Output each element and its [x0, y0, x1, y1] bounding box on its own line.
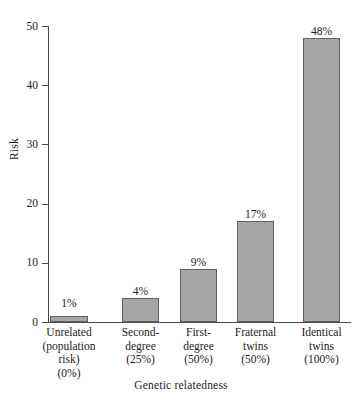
bar-fraternal-twins[interactable]: [237, 221, 274, 322]
category-line: Fraternal: [220, 326, 291, 340]
category-line: Unrelated: [34, 326, 104, 340]
x-axis-category-label-unrelated: Unrelated (population risk) (0%): [34, 326, 104, 380]
category-line: (100%): [286, 353, 357, 367]
bar-value-fraternal-twins: 17%: [237, 209, 274, 221]
category-line: (50%): [220, 353, 291, 367]
bar-value-second-degree: 4%: [122, 286, 159, 298]
bar-unrelated[interactable]: [50, 316, 88, 322]
category-line: twins: [286, 340, 357, 354]
bar-second-degree[interactable]: [122, 298, 159, 322]
category-line: (population: [34, 340, 104, 354]
x-axis-category-label-identical-twins: Identical twins (100%): [286, 326, 357, 367]
bar-chart: 50 40 30 20 10 0 Risk Genetic relatednes…: [0, 0, 362, 401]
bar-value-identical-twins: 48%: [303, 26, 340, 38]
bar-identical-twins[interactable]: [303, 38, 340, 322]
bar-value-first-degree: 9%: [180, 257, 217, 269]
bar-value-unrelated: 1%: [50, 298, 88, 310]
bar-first-degree[interactable]: [180, 269, 217, 322]
category-line: twins: [220, 340, 291, 354]
x-axis-category-label-fraternal-twins: Fraternal twins (50%): [220, 326, 291, 367]
category-line: Identical: [286, 326, 357, 340]
category-line: risk): [34, 353, 104, 367]
bars-layer: 1% Unrelated (population risk) (0%) 4% S…: [0, 0, 362, 401]
category-line: (0%): [34, 367, 104, 381]
